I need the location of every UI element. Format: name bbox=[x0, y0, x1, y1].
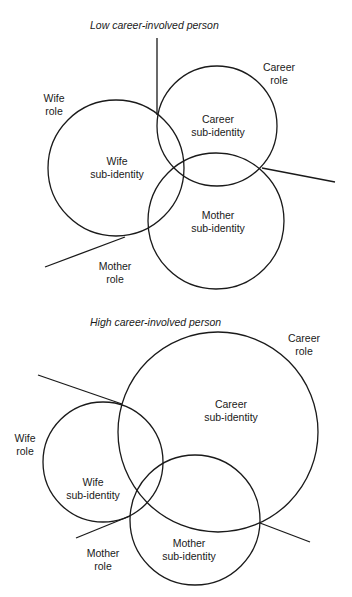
career-sub-identity-label: Career sub-identity bbox=[191, 113, 245, 139]
role-diagrams bbox=[0, 0, 352, 597]
diagram-title-high: High career-involved person bbox=[90, 316, 221, 328]
wife-role-label: Wife role bbox=[15, 432, 36, 458]
mother-role-label: Mother role bbox=[87, 547, 120, 573]
mother-circle bbox=[130, 455, 260, 585]
wife-circle bbox=[43, 402, 163, 522]
mother-sub-identity-label: Mother sub-identity bbox=[191, 209, 245, 235]
career-role-label: Career role bbox=[263, 61, 295, 87]
wife-sub-identity-label: Wife sub-identity bbox=[66, 476, 120, 502]
wife-sub-identity-label: Wife sub-identity bbox=[90, 155, 144, 181]
mother-role-label: Mother role bbox=[99, 260, 132, 286]
wife-role-label: Wife role bbox=[44, 92, 65, 118]
diagram-title-low: Low career-involved person bbox=[90, 19, 219, 31]
career-mother-boundary-line bbox=[260, 523, 310, 542]
career-mother-boundary-line bbox=[262, 168, 335, 182]
career-role-label: Career role bbox=[288, 332, 320, 358]
mother-sub-identity-label: Mother sub-identity bbox=[162, 537, 216, 563]
career-sub-identity-label: Career sub-identity bbox=[204, 398, 258, 424]
career-wife-boundary-line bbox=[38, 375, 122, 404]
